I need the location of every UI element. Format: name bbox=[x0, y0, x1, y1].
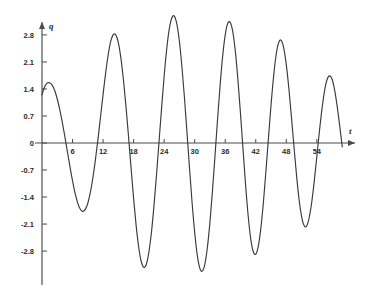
y-axis-label: q bbox=[49, 21, 54, 31]
x-tick-label: 24 bbox=[160, 147, 169, 156]
x-axis-label: t bbox=[349, 126, 352, 136]
y-tick-group: 2.82.11.40.70-0.7-1.4-2.1-2.8 bbox=[21, 31, 47, 256]
waveform-plot: 61218243036424854 2.82.11.40.70-0.7-1.4-… bbox=[0, 0, 386, 292]
x-tick-label: 42 bbox=[252, 147, 260, 156]
y-tick-label: -2.8 bbox=[21, 247, 34, 256]
x-tick-label: 6 bbox=[70, 147, 74, 156]
y-tick-label: 2.8 bbox=[24, 31, 34, 40]
x-axis-arrow-icon bbox=[348, 140, 355, 146]
y-tick-label: 1.4 bbox=[24, 85, 35, 94]
y-tick-label: 2.1 bbox=[24, 58, 34, 67]
x-tick-label: 36 bbox=[221, 147, 229, 156]
y-tick-label: 0 bbox=[30, 139, 34, 148]
x-tick-label: 18 bbox=[129, 147, 137, 156]
chart-figure: 61218243036424854 2.82.11.40.70-0.7-1.4-… bbox=[0, 0, 386, 292]
y-tick-label: -1.4 bbox=[21, 193, 35, 202]
y-axis-arrow-icon bbox=[39, 22, 45, 29]
x-tick-group: 61218243036424854 bbox=[70, 139, 321, 156]
x-tick-label: 48 bbox=[282, 147, 290, 156]
x-tick-label: 12 bbox=[99, 147, 107, 156]
y-tick-label: -2.1 bbox=[21, 220, 34, 229]
y-tick-label: -0.7 bbox=[21, 166, 34, 175]
x-tick-label: 30 bbox=[191, 147, 199, 156]
y-tick-label: 0.7 bbox=[24, 112, 34, 121]
